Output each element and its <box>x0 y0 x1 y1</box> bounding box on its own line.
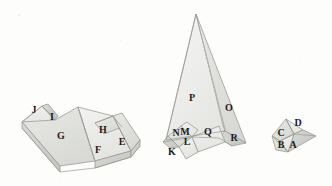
label-C: C <box>277 128 284 138</box>
label-Q: Q <box>204 127 212 137</box>
label-F: F <box>95 145 101 155</box>
label-J: J <box>32 105 37 115</box>
label-G: G <box>57 131 65 141</box>
paper-speck <box>18 14 20 16</box>
label-H: H <box>99 125 107 135</box>
label-B: B <box>278 140 285 150</box>
label-N: N <box>172 128 179 138</box>
label-L: L <box>184 137 191 147</box>
label-I: I <box>50 112 54 122</box>
label-K: K <box>168 147 176 157</box>
label-P: P <box>189 93 195 103</box>
figure-canvas: JIGHFEPONMLKQRDCBA <box>0 0 332 186</box>
paper-speck <box>300 60 301 61</box>
label-O: O <box>225 103 233 113</box>
paper-speck <box>120 40 121 41</box>
label-E: E <box>119 137 126 147</box>
geometry-illustration <box>0 0 332 186</box>
paper-speck <box>60 178 61 179</box>
paper-speck <box>10 28 11 29</box>
paper-speck <box>250 26 251 27</box>
paper-speck <box>210 178 211 179</box>
label-D: D <box>294 118 301 128</box>
label-R: R <box>230 133 237 143</box>
label-A: A <box>289 140 296 150</box>
